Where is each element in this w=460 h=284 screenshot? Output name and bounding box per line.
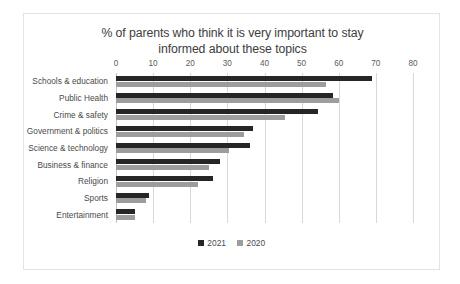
bar-2020-0 xyxy=(116,82,326,87)
gridline-70 xyxy=(376,73,377,223)
x-axis-tick-30: 30 xyxy=(223,59,232,68)
bar-2020-6 xyxy=(116,182,198,187)
y-axis-category-labels: Schools & educationPublic HealthCrime & … xyxy=(24,73,112,223)
bar-2021-3 xyxy=(116,126,253,131)
category-label-5: Business & finance xyxy=(37,160,108,170)
bar-2021-8 xyxy=(116,209,135,214)
bar-2020-7 xyxy=(116,198,146,203)
x-axis-tick-70: 70 xyxy=(371,59,380,68)
bar-2020-4 xyxy=(116,148,229,153)
legend-item-2021: 2021 xyxy=(198,238,226,248)
x-axis-tick-60: 60 xyxy=(334,59,343,68)
x-axis-tick-40: 40 xyxy=(260,59,269,68)
chart-legend: 2021 2020 xyxy=(24,238,439,248)
chart-container: % of parents who think it is very import… xyxy=(23,13,440,270)
bar-2020-5 xyxy=(116,165,209,170)
bar-2021-5 xyxy=(116,159,220,164)
x-axis-tick-80: 80 xyxy=(408,59,417,68)
legend-label-2021: 2021 xyxy=(207,238,226,248)
category-label-0: Schools & education xyxy=(32,76,108,86)
bar-2020-1 xyxy=(116,98,339,103)
x-axis-tick-labels: 01020304050607080 xyxy=(116,59,413,71)
category-label-8: Entertainment xyxy=(56,210,108,220)
category-label-4: Science & technology xyxy=(28,143,108,153)
plot-area xyxy=(116,73,413,223)
plot-wrapper: 01020304050607080 Schools & educationPub… xyxy=(24,14,439,269)
category-label-1: Public Health xyxy=(59,93,108,103)
x-axis-tick-50: 50 xyxy=(297,59,306,68)
gridline-60 xyxy=(339,73,340,223)
x-axis-tick-10: 10 xyxy=(149,59,158,68)
bar-2021-6 xyxy=(116,176,213,181)
legend-item-2020: 2020 xyxy=(237,238,265,248)
bar-2020-2 xyxy=(116,115,285,120)
bar-2020-3 xyxy=(116,132,244,137)
bar-2021-2 xyxy=(116,109,318,114)
gridline-80 xyxy=(413,73,414,223)
legend-swatch-icon-2021 xyxy=(198,240,204,246)
legend-label-2020: 2020 xyxy=(247,238,266,248)
legend-swatch-icon-2020 xyxy=(237,240,243,246)
category-label-2: Crime & safety xyxy=(54,110,108,120)
x-axis-tick-20: 20 xyxy=(186,59,195,68)
x-axis-tick-0: 0 xyxy=(114,59,119,68)
bar-2021-7 xyxy=(116,193,149,198)
category-label-3: Government & politics xyxy=(27,126,108,136)
category-label-6: Religion xyxy=(78,176,108,186)
bar-2020-8 xyxy=(116,215,135,220)
category-label-7: Sports xyxy=(84,193,108,203)
bar-2021-1 xyxy=(116,93,333,98)
bar-2021-0 xyxy=(116,76,372,81)
bar-2021-4 xyxy=(116,143,250,148)
